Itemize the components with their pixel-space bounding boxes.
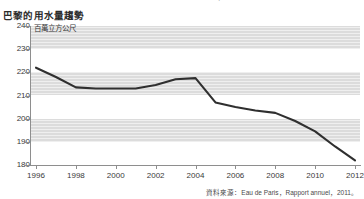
x-tick-mark [275,165,276,169]
x-tick-label: 2006 [226,171,244,180]
y-axis-unit-label: 百萬立方公尺 [34,22,76,33]
x-tick-label: 1998 [67,171,85,180]
x-tick-mark [196,165,197,169]
x-tick-label: 2008 [266,171,284,180]
x-tick-mark [76,165,77,169]
x-tick-mark [355,165,356,169]
x-tick-label: 2012 [346,171,364,180]
x-tick-mark [156,165,157,169]
x-tick-label: 2010 [306,171,324,180]
x-tick-label: 1996 [27,171,45,180]
x-tick-mark [36,165,37,169]
x-tick-mark [235,165,236,169]
x-tick-label: 2004 [187,171,205,180]
x-tick-label: 2000 [107,171,125,180]
x-tick-mark [315,165,316,169]
x-tick-mark [116,165,117,169]
x-tick-label: 2002 [147,171,165,180]
